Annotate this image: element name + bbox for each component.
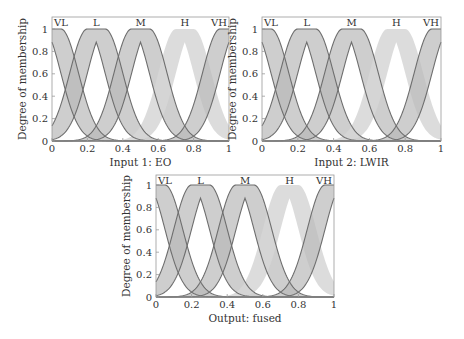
- mf-labels: VLLMHVH: [157, 175, 332, 186]
- mf-label-m: M: [240, 175, 250, 186]
- x-tick-label: 0.2: [184, 299, 200, 310]
- y-tick-label: 1: [146, 180, 152, 191]
- x-tick-label: 1: [331, 299, 337, 310]
- mf-label-l: L: [197, 175, 204, 186]
- plot-output: 00.20.40.60.81 00.20.40.60.81 VLLMHVH De…: [0, 0, 464, 339]
- y-axis-label: Degree of membership: [120, 175, 132, 297]
- x-axis-label: Output: fused: [208, 312, 281, 324]
- y-tick-label: 0.6: [136, 224, 152, 235]
- mf-label-vh: VH: [315, 175, 332, 186]
- x-tick-label: 0.4: [219, 299, 235, 310]
- y-tick-label: 0.8: [136, 202, 152, 213]
- y-tick-label: 0: [146, 292, 152, 303]
- y-tick-label: 0.2: [136, 269, 152, 280]
- y-tick-label: 0.4: [136, 247, 152, 258]
- y-ticks: 00.20.40.60.81: [136, 180, 159, 303]
- mf-label-vl: VL: [157, 175, 172, 186]
- x-tick-label: 0.6: [255, 299, 271, 310]
- mf-label-h: H: [285, 175, 294, 186]
- x-tick-label: 0: [153, 299, 159, 310]
- mf-bands: [156, 185, 334, 297]
- x-tick-label: 0.8: [290, 299, 306, 310]
